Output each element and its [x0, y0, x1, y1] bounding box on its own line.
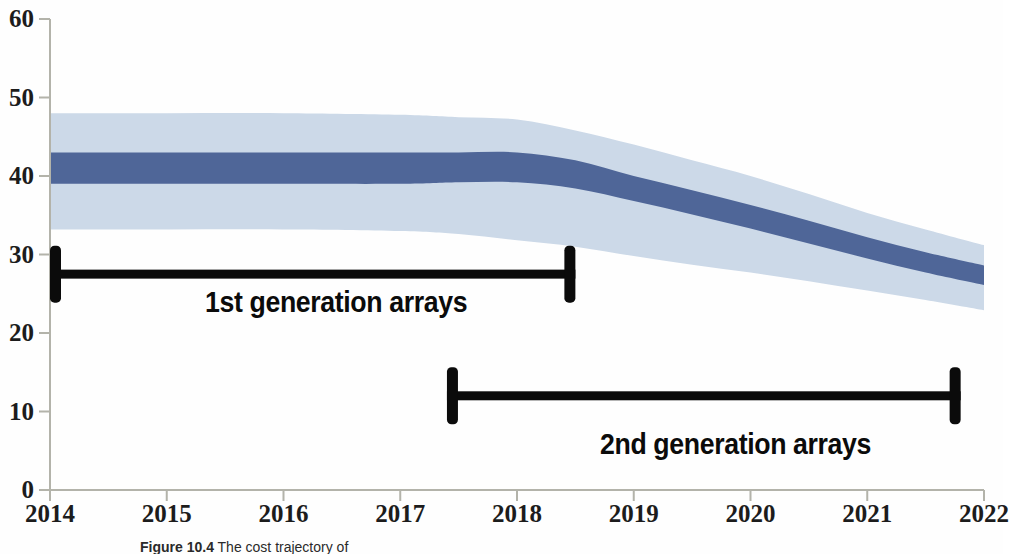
y-tick-label: 10 [0, 399, 34, 424]
generation-label: 2nd generation arrays [600, 428, 871, 461]
y-tick-label: 50 [0, 85, 34, 110]
figure-caption: Figure 10.4 The cost trajectory of [140, 539, 840, 554]
y-tick-label: 20 [0, 320, 34, 345]
y-tick-marks [39, 19, 50, 490]
x-tick-label: 2020 [711, 501, 791, 526]
x-tick-label: 2019 [594, 501, 674, 526]
x-tick-label: 2022 [944, 501, 1013, 526]
x-tick-label: 2021 [827, 501, 907, 526]
y-tick-label: 0 [0, 477, 34, 502]
generation-label: 1st generation arrays [205, 286, 467, 319]
x-tick-label: 2018 [477, 501, 557, 526]
caption-text: The cost trajectory of [214, 539, 348, 554]
outer-uncertainty-band [50, 113, 984, 310]
y-tick-label: 60 [0, 6, 34, 31]
caption-figure-number: Figure 10.4 [140, 539, 214, 554]
x-tick-label: 2016 [244, 501, 324, 526]
y-tick-label: 40 [0, 163, 34, 188]
y-tick-label: 30 [0, 242, 34, 267]
x-tick-label: 2017 [360, 501, 440, 526]
x-tick-label: 2015 [127, 501, 207, 526]
x-tick-label: 2014 [10, 501, 90, 526]
